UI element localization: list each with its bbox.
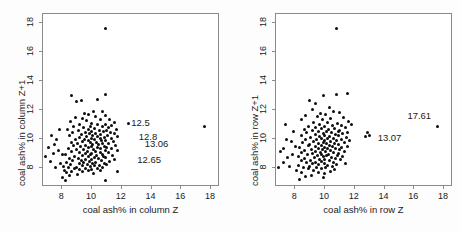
scatter-point [106,134,109,137]
scatter-panel-column: 8101214161881012141618 12.512.813.0612.6… [0,0,230,231]
x-ticklabel: 8 [292,191,297,201]
scatter-point [311,108,314,111]
scatter-point [104,179,107,182]
scatter-point [52,152,55,155]
scatter-point [87,169,90,172]
scatter-point [322,94,325,97]
plot-frame-column [42,13,219,186]
scatter-point [69,120,72,123]
x-axis-title-column: coal ash% in column Z [83,204,179,215]
scatter-point [291,153,294,156]
scatter-point [66,128,69,131]
scatter-point [312,169,315,172]
point-annotation: 13.06 [145,138,169,149]
scatter-point [335,163,338,166]
scatter-point [58,128,61,131]
x-tick [354,186,355,189]
scatter-point [50,134,53,137]
scatter-point [101,125,104,128]
scatter-point [323,162,326,165]
scatter-point [317,130,320,133]
point-annotation: 13.07 [378,132,402,143]
y-tick [39,138,42,139]
scatter-point [300,159,303,162]
scatter-point [334,157,337,160]
scatter-point [113,132,116,135]
x-ticklabel: 18 [438,191,448,201]
scatter-point [67,166,70,169]
scatter-point [90,168,93,171]
y-axis-title-column: coal ash% in column Z+1 [16,80,27,186]
x-tick [210,186,211,189]
scatter-point [332,161,335,164]
scatter-point [323,172,326,175]
y-tick [272,51,275,52]
scatter-point [346,92,349,95]
scatter-point [74,138,77,141]
scatter-point [81,140,84,143]
scatter-point [93,156,96,159]
x-tick [91,186,92,189]
x-tick [413,186,414,189]
scatter-point [70,94,73,97]
scatter-point [307,144,310,147]
scatter-point [83,112,86,115]
scatter-point [111,154,114,157]
scatter-point [92,110,95,113]
x-ticklabel: 12 [116,191,126,201]
scatter-point [108,118,111,121]
scatter-point [98,129,101,132]
x-tick [180,186,181,189]
y-tick [39,109,42,110]
scatter-point [277,166,280,169]
x-ticklabel: 14 [146,191,156,201]
y-tick [272,138,275,139]
y-tick [39,51,42,52]
x-ticklabel: 10 [319,191,329,201]
y-tick [39,167,42,168]
scatter-point [314,161,317,164]
scatter-point [82,148,85,151]
point-annotation: 12.5 [131,117,150,128]
scatter-point [331,145,334,148]
y-ticklabel: 16 [25,45,35,57]
scatter-point [81,154,84,157]
scatter-point [85,135,88,138]
scatter-point [127,122,130,125]
scatter-point [68,174,71,177]
scatter-point [309,159,312,162]
scatter-point [340,138,343,141]
scatter-point [92,172,95,175]
scatter-point [282,161,285,164]
scatter-point [109,131,112,134]
scatter-point [333,142,336,145]
scatter-point [73,155,76,158]
scatter-point [49,160,52,163]
x-tick [324,186,325,189]
y-tick [39,22,42,23]
x-ticklabel: 8 [59,191,64,201]
scatter-point [317,147,320,150]
x-tick [384,186,385,189]
x-tick [121,186,122,189]
y-ticklabel: 18 [258,16,268,28]
scatter-point [346,145,349,148]
scatter-point [310,148,313,151]
scatter-point [62,165,65,168]
scatter-point [333,168,336,171]
x-ticklabel: 18 [205,191,215,201]
scatter-point [70,170,73,173]
y-ticklabel: 16 [258,45,268,57]
scatter-point [335,139,338,142]
scatter-point [336,122,339,125]
x-ticklabel: 14 [379,191,389,201]
scatter-point [323,134,326,137]
scatter-point [203,125,206,128]
scatter-point [328,106,331,109]
scatter-point [96,146,99,149]
scatter-point [78,136,81,139]
x-ticklabel: 16 [175,191,185,201]
scatter-point [81,164,84,167]
x-tick [443,186,444,189]
coal-ash-scattergram-figure: 8101214161881012141618 12.512.813.0612.6… [0,0,460,231]
